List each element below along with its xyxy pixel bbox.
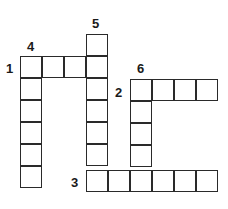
crossword-cell[interactable] bbox=[42, 56, 64, 78]
clue-number-4: 4 bbox=[27, 40, 34, 53]
crossword-cell[interactable] bbox=[196, 79, 218, 101]
crossword-cell[interactable] bbox=[196, 170, 218, 192]
crossword-cell[interactable] bbox=[20, 166, 42, 188]
crossword-cell[interactable] bbox=[20, 56, 42, 78]
crossword-cell[interactable] bbox=[86, 34, 108, 56]
clue-number-3: 3 bbox=[71, 176, 78, 189]
crossword-cell[interactable] bbox=[20, 78, 42, 100]
crossword-cell[interactable] bbox=[130, 145, 152, 167]
crossword-cell[interactable] bbox=[174, 170, 196, 192]
crossword-cell[interactable] bbox=[20, 144, 42, 166]
crossword-cell[interactable] bbox=[86, 78, 108, 100]
crossword-cell[interactable] bbox=[130, 170, 152, 192]
crossword-cell[interactable] bbox=[86, 56, 108, 78]
crossword-cell[interactable] bbox=[130, 101, 152, 123]
crossword-cell[interactable] bbox=[86, 144, 108, 166]
clue-number-1: 1 bbox=[6, 62, 13, 75]
clue-number-6: 6 bbox=[137, 62, 144, 75]
clue-number-2: 2 bbox=[115, 86, 122, 99]
crossword-cell[interactable] bbox=[20, 122, 42, 144]
crossword-cell[interactable] bbox=[108, 170, 130, 192]
crossword-cell[interactable] bbox=[64, 56, 86, 78]
crossword-cell[interactable] bbox=[86, 170, 108, 192]
crossword-cell[interactable] bbox=[152, 79, 174, 101]
crossword-cell[interactable] bbox=[130, 123, 152, 145]
crossword-cell[interactable] bbox=[130, 79, 152, 101]
crossword-cell[interactable] bbox=[20, 100, 42, 122]
crossword-cell[interactable] bbox=[174, 79, 196, 101]
crossword-cell[interactable] bbox=[86, 100, 108, 122]
crossword-cell[interactable] bbox=[152, 170, 174, 192]
clue-number-5: 5 bbox=[92, 17, 99, 30]
crossword-cell[interactable] bbox=[86, 122, 108, 144]
